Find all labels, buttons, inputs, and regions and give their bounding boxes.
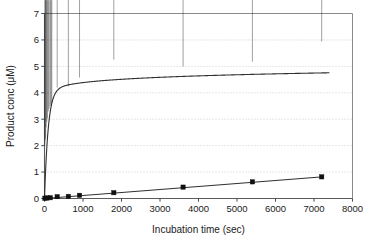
data-point-slow-2 [48,196,52,200]
x-tick-label-4000: 4000 [188,203,209,214]
chart-figure: 0123456701000200030004000500060007000800… [0,0,381,243]
data-point-slow-5 [77,193,81,197]
x-tick-label-1000: 1000 [72,203,93,214]
data-point-slow-7 [181,185,185,189]
data-point-slow-6 [112,190,116,194]
data-point-slow-3 [55,194,59,198]
x-tick-label-7000: 7000 [303,203,324,214]
x-tick-label-8000: 8000 [342,203,363,214]
x-tick-label-0: 0 [42,203,47,214]
incubation-time-product-conc-chart: 0123456701000200030004000500060007000800… [0,0,381,243]
y-tick-label-1: 1 [34,166,39,177]
x-tick-label-3000: 3000 [149,203,170,214]
data-point-slow-9 [320,175,324,179]
x-tick-label-6000: 6000 [265,203,286,214]
y-tick-label-2: 2 [34,140,39,151]
data-point-slow-4 [66,194,70,198]
x-tick-label-2000: 2000 [111,203,132,214]
y-tick-label-3: 3 [34,114,39,125]
y-axis-title: Product conc (μM) [5,65,16,147]
x-tick-label-5000: 5000 [226,203,247,214]
x-axis-title: Incubation time (sec) [152,224,245,235]
y-tick-label-0: 0 [34,193,39,204]
y-tick-label-6: 6 [34,34,39,45]
y-tick-label-5: 5 [34,61,39,72]
y-tick-label-4: 4 [34,87,39,98]
y-tick-label-7: 7 [34,8,39,19]
data-point-slow-8 [250,180,254,184]
